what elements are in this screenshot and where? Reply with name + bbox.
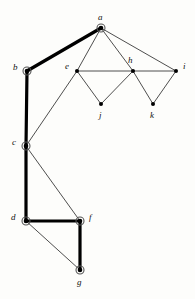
node-dot-h	[131, 69, 135, 73]
graph-edge-d-g	[26, 221, 80, 270]
graph-edge-k-i	[153, 71, 176, 104]
graph-edge-b-c	[26, 71, 27, 146]
node-dot-j	[99, 102, 103, 106]
graph-node-k[interactable]	[151, 102, 155, 106]
graph-edge-h-k	[133, 71, 153, 104]
node-dot-f	[78, 219, 83, 224]
graph-canvas	[0, 0, 195, 299]
graph-figure: abcdefghijk	[0, 0, 195, 299]
graph-node-h[interactable]	[131, 69, 135, 73]
edges-layer	[26, 28, 176, 270]
node-label-d: d	[11, 213, 16, 222]
node-label-c: c	[12, 138, 16, 147]
graph-edge-c-f	[26, 146, 80, 221]
graph-node-i[interactable]	[174, 69, 178, 73]
node-dot-d	[24, 219, 29, 224]
graph-node-j[interactable]	[99, 102, 103, 106]
node-label-f: f	[89, 213, 92, 222]
graph-edge-c-e	[26, 71, 77, 146]
graph-edge-e-j	[77, 71, 101, 104]
node-dot-g	[78, 268, 83, 273]
node-dot-a	[99, 26, 104, 31]
node-label-a: a	[98, 13, 103, 22]
graph-edge-a-b	[27, 28, 101, 71]
node-dot-c	[24, 144, 29, 149]
node-label-h: h	[128, 56, 133, 65]
node-label-k: k	[150, 111, 154, 120]
node-dot-b	[25, 69, 30, 74]
node-label-g: g	[77, 278, 82, 287]
node-label-i: i	[183, 62, 186, 71]
graph-node-e[interactable]	[75, 69, 79, 73]
node-label-b: b	[13, 63, 18, 72]
node-dot-i	[174, 69, 178, 73]
node-dot-k	[151, 102, 155, 106]
node-label-e: e	[65, 62, 69, 71]
node-label-j: j	[99, 111, 102, 120]
graph-edge-a-i	[101, 28, 176, 71]
node-dot-e	[75, 69, 79, 73]
graph-edge-j-h	[101, 71, 133, 104]
